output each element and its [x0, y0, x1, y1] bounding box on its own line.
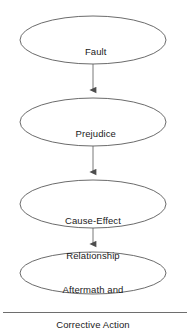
node-aftermath-and-corrective-action[interactable]: [20, 252, 166, 294]
node-cause-effect-relationship[interactable]: [20, 180, 166, 228]
node-prejudice[interactable]: [20, 98, 166, 146]
footer-divider: [3, 312, 187, 313]
node-fault[interactable]: [20, 16, 166, 64]
